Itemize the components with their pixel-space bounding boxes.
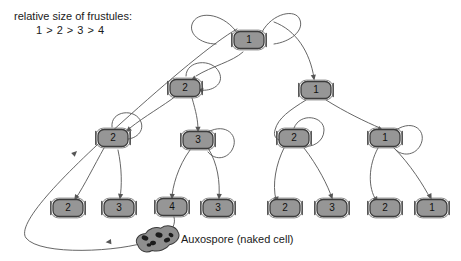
arrowhead-icon: [105, 239, 111, 245]
edge-cell3-to-cell7: [326, 100, 380, 128]
edge-cell6-to-cell12: [274, 148, 284, 200]
cell-size-label: 2: [291, 132, 297, 143]
edge-cell7-to-cell15: [394, 148, 430, 198]
cell-node[interactable]: 2: [51, 198, 85, 218]
cell-size-label: 1: [313, 84, 319, 95]
cell-node[interactable]: 3: [181, 130, 215, 150]
edge-cell1-loop-left: [192, 15, 238, 44]
legend-line-2: 1 > 2 > 3 > 4: [14, 23, 194, 37]
auxospore-label: Auxospore (naked cell): [181, 233, 294, 245]
edge-cell2-to-cell4: [130, 96, 176, 128]
cell-size-label: 4: [169, 201, 175, 212]
edge-cell2-to-cell5: [192, 98, 198, 130]
cell-node[interactable]: 2: [96, 128, 130, 148]
cell-size-label: 3: [116, 202, 122, 213]
cell-size-label: 3: [215, 202, 221, 213]
cell-node[interactable]: 3: [201, 198, 235, 218]
cell-node[interactable]: 2: [368, 198, 402, 218]
cell-node[interactable]: 1: [232, 30, 266, 50]
auxospore-spot-5: [147, 243, 152, 247]
cell-node[interactable]: 1: [415, 198, 449, 218]
cell-size-label: 2: [382, 202, 388, 213]
legend-line-1: relative size of frustules:: [14, 9, 194, 23]
edge-cell5-to-cell10: [172, 150, 190, 198]
edge-cell7-to-cell14: [370, 148, 378, 200]
cell-node[interactable]: 3: [315, 198, 349, 218]
cell-size-label: 3: [329, 202, 335, 213]
cell-node[interactable]: 4: [155, 197, 189, 217]
cell-size-label: 3: [195, 134, 201, 145]
cell-size-label: 1: [382, 132, 388, 143]
cell-size-label: 1: [429, 202, 435, 213]
life-cycle-diagram: 121232123432321: [0, 0, 461, 261]
edge-cell1-loop-right: [262, 14, 301, 44]
diagram-canvas: 121232123432321 relative size of frustul…: [0, 0, 461, 261]
cell-size-label: 1: [246, 34, 252, 45]
cell-size-label: 2: [282, 202, 288, 213]
edge-cell4-to-cell9: [118, 150, 121, 198]
edge-cell6-to-cell13: [304, 148, 332, 198]
cell-size-label: 2: [182, 82, 188, 93]
arrowhead-icon: [71, 149, 79, 157]
edge-cell1-to-cell3: [274, 22, 314, 78]
arrowhead-icon: [216, 194, 221, 200]
auxospore-shape: [134, 223, 181, 255]
cell-size-label: 2: [65, 202, 71, 213]
cells-layer: 121232123432321: [51, 30, 449, 218]
legend-relative-size: relative size of frustules: 1 > 2 > 3 > …: [14, 9, 194, 37]
cell-node[interactable]: 1: [368, 128, 402, 148]
edge-cell4-to-cell8: [76, 148, 104, 198]
cell-size-label: 2: [110, 132, 116, 143]
cell-node[interactable]: 2: [168, 78, 202, 98]
cell-node[interactable]: 2: [268, 198, 302, 218]
arrowhead-icon: [117, 193, 123, 199]
edge-cell5-to-cell11: [208, 148, 219, 198]
cell-node[interactable]: 1: [299, 80, 333, 100]
cell-node[interactable]: 2: [277, 128, 311, 148]
auxospore-body: [134, 223, 181, 255]
cell-node[interactable]: 3: [102, 198, 136, 218]
